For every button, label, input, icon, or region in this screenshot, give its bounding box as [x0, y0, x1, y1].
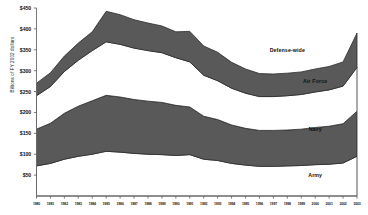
series-label-navy: Navy: [309, 126, 322, 132]
x-tick-label: 1980: [33, 202, 40, 206]
x-tick-label: 1990: [172, 202, 179, 206]
x-tick-label: 1981: [47, 202, 54, 206]
series-label-army: Army: [308, 172, 322, 178]
series-label-defense-wide: Defense-wide: [270, 47, 305, 53]
x-tick-label: 2001: [326, 202, 333, 206]
x-tick-label: 1986: [117, 202, 124, 206]
x-tick-label: 1991: [186, 202, 193, 206]
x-tick-label: 1997: [270, 202, 277, 206]
x-tick-label: 1995: [242, 202, 249, 206]
x-tick-label: 1982: [61, 202, 68, 206]
series-label-air-force: Air Force: [303, 78, 327, 84]
x-tick-label: 1993: [214, 202, 221, 206]
x-tick-label: 2000: [312, 202, 319, 206]
x-tick-label: 2002: [339, 202, 346, 206]
x-tick-label: 1985: [103, 202, 110, 206]
stacked-area-chart: Billions of FY 2002 dollars $50$100$150$…: [0, 0, 368, 215]
x-tick-label: 1989: [158, 202, 165, 206]
x-tick-label: 2003: [353, 202, 360, 206]
x-tick-label: 1996: [256, 202, 263, 206]
x-tick-label: 1992: [200, 202, 207, 206]
x-tick-label: 1994: [228, 202, 235, 206]
x-tick-label: 1987: [130, 202, 137, 206]
x-tick-label: 1983: [75, 202, 82, 206]
x-tick-label: 1984: [89, 202, 96, 206]
x-tick-label: 1999: [298, 202, 305, 206]
x-axis-tick-labels: 1980198119821983198419851986198719881989…: [0, 0, 368, 215]
x-tick-label: 1988: [144, 202, 151, 206]
x-tick-label: 1998: [284, 202, 291, 206]
